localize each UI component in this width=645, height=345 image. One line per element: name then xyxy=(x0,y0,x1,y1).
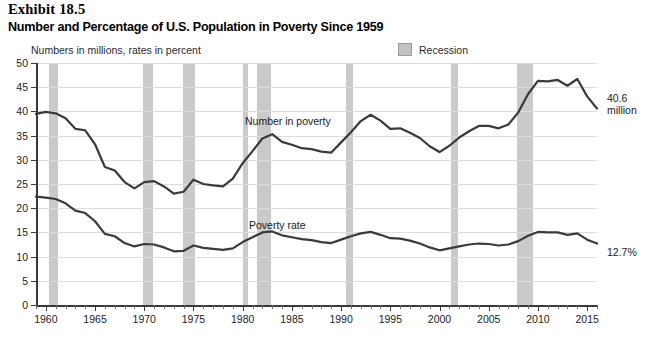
x-tick-minor xyxy=(558,305,559,309)
x-axis-label: 2000 xyxy=(420,313,460,325)
y-axis-label: 30 xyxy=(8,155,28,165)
data-series xyxy=(36,63,597,305)
x-axis-label: 1975 xyxy=(173,313,213,325)
x-tick-minor xyxy=(75,305,76,309)
x-tick-minor xyxy=(302,305,303,309)
x-tick-minor xyxy=(262,305,263,309)
legend-item-recession: Recession xyxy=(419,44,468,56)
x-tick-minor xyxy=(361,305,362,309)
x-axis-label: 1985 xyxy=(272,313,312,325)
x-tick-minor xyxy=(499,305,500,309)
x-tick-minor xyxy=(115,305,116,309)
x-tick-minor xyxy=(154,305,155,309)
x-tick-minor xyxy=(282,305,283,309)
x-tick-minor xyxy=(430,305,431,309)
x-tick-major xyxy=(144,305,145,311)
x-tick-minor xyxy=(105,305,106,309)
x-tick-minor xyxy=(420,305,421,309)
x-tick-major xyxy=(46,305,47,311)
x-tick-minor xyxy=(203,305,204,309)
x-axis-label: 1990 xyxy=(321,313,361,325)
x-tick-minor xyxy=(85,305,86,309)
x-tick-minor xyxy=(508,305,509,309)
series-line-poverty-rate xyxy=(36,197,597,252)
recession-swatch-icon xyxy=(398,43,412,56)
x-tick-minor xyxy=(125,305,126,309)
x-axis-label: 1960 xyxy=(26,313,66,325)
end-value-number: 40.6 million xyxy=(607,92,637,116)
x-tick-major xyxy=(292,305,293,311)
legend: Recession xyxy=(398,43,468,56)
series-label-poverty-rate: Poverty rate xyxy=(249,219,306,231)
x-axis-label: 2010 xyxy=(518,313,558,325)
x-tick-minor xyxy=(223,305,224,309)
x-tick-major xyxy=(243,305,244,311)
x-tick-minor xyxy=(351,305,352,309)
end-value-number-unit: million xyxy=(607,104,637,116)
chart-title: Number and Percentage of U.S. Population… xyxy=(8,19,383,34)
x-tick-minor xyxy=(56,305,57,309)
x-tick-minor xyxy=(66,305,67,309)
x-tick-minor xyxy=(174,305,175,309)
x-tick-major xyxy=(390,305,391,311)
x-tick-minor xyxy=(548,305,549,309)
y-axis-label: 25 xyxy=(8,179,28,189)
x-axis-label: 2015 xyxy=(567,313,607,325)
x-tick-major xyxy=(538,305,539,311)
y-axis-label: 5 xyxy=(8,276,28,286)
x-tick-major xyxy=(587,305,588,311)
plot-area xyxy=(36,63,597,305)
x-tick-major xyxy=(440,305,441,311)
x-tick-minor xyxy=(400,305,401,309)
x-axis-label: 1970 xyxy=(124,313,164,325)
x-tick-minor xyxy=(528,305,529,309)
x-tick-minor xyxy=(321,305,322,309)
series-label-number-in-poverty: Number in poverty xyxy=(245,115,331,127)
y-axis-label: 10 xyxy=(8,252,28,262)
x-tick-minor xyxy=(469,305,470,309)
x-tick-minor xyxy=(567,305,568,309)
y-axis-label: 40 xyxy=(8,106,28,116)
x-axis xyxy=(36,305,597,307)
units-note: Numbers in millions, rates in percent xyxy=(31,44,201,56)
exhibit-figure: Exhibit 18.5 Number and Percentage of U.… xyxy=(0,0,645,345)
y-axis-label: 0 xyxy=(8,300,28,310)
x-tick-minor xyxy=(253,305,254,309)
end-value-rate: 12.7% xyxy=(607,246,637,258)
x-tick-minor xyxy=(312,305,313,309)
y-axis-label: 50 xyxy=(8,58,28,68)
end-value-number-amount: 40.6 xyxy=(607,92,637,104)
y-axis-label: 35 xyxy=(8,131,28,141)
x-tick-minor xyxy=(233,305,234,309)
x-tick-minor xyxy=(518,305,519,309)
x-tick-minor xyxy=(184,305,185,309)
x-tick-minor xyxy=(36,305,37,309)
series-line-number-in-poverty xyxy=(36,79,597,194)
x-tick-minor xyxy=(380,305,381,309)
x-tick-minor xyxy=(410,305,411,309)
x-tick-major xyxy=(193,305,194,311)
x-tick-minor xyxy=(134,305,135,309)
y-axis-label: 20 xyxy=(8,203,28,213)
x-tick-minor xyxy=(597,305,598,309)
x-tick-minor xyxy=(371,305,372,309)
x-axis-label: 1995 xyxy=(370,313,410,325)
x-tick-minor xyxy=(459,305,460,309)
x-tick-major xyxy=(489,305,490,311)
x-tick-major xyxy=(95,305,96,311)
x-tick-minor xyxy=(164,305,165,309)
x-tick-minor xyxy=(479,305,480,309)
x-tick-major xyxy=(341,305,342,311)
x-tick-minor xyxy=(213,305,214,309)
x-tick-minor xyxy=(577,305,578,309)
y-axis-label: 15 xyxy=(8,227,28,237)
x-axis-label: 1980 xyxy=(223,313,263,325)
x-tick-minor xyxy=(331,305,332,309)
x-axis-label: 2005 xyxy=(469,313,509,325)
x-axis-label: 1965 xyxy=(75,313,115,325)
x-tick-minor xyxy=(272,305,273,309)
y-axis-label: 45 xyxy=(8,82,28,92)
x-tick-minor xyxy=(449,305,450,309)
exhibit-number: Exhibit 18.5 xyxy=(8,1,85,18)
